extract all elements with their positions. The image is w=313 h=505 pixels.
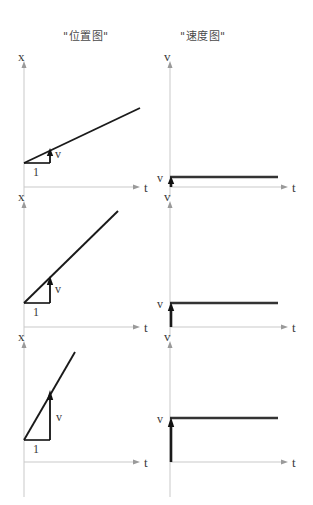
position-graph-row2: x t 1 v xyxy=(0,192,160,337)
velocity-level-label: v xyxy=(157,297,163,311)
x-axis-arrowhead xyxy=(133,325,140,330)
x-axis-label: t xyxy=(292,455,296,470)
rise-label: v xyxy=(56,410,62,424)
column-title-velocity: "速度图" xyxy=(180,27,226,43)
x-axis-arrowhead xyxy=(133,460,140,465)
velocity-graph-row2: v t v xyxy=(156,192,313,337)
y-axis-label: v xyxy=(164,52,171,64)
velocity-graph-row3: v t v xyxy=(156,332,313,497)
y-axis-label: x xyxy=(18,332,25,344)
run-label: 1 xyxy=(33,165,39,179)
position-data-line xyxy=(24,108,140,163)
x-axis-arrowhead xyxy=(133,185,140,190)
velocity-level-label: v xyxy=(157,412,163,426)
position-graph-row1: x t 1 v xyxy=(0,52,160,197)
x-axis-arrowhead xyxy=(281,185,288,190)
position-graph-row3: x t 1 v xyxy=(0,332,160,497)
x-axis-label: t xyxy=(144,455,148,470)
y-axis-label: x xyxy=(18,192,25,204)
y-axis-label: v xyxy=(164,332,171,344)
x-axis-arrowhead xyxy=(281,460,288,465)
position-data-line xyxy=(24,211,118,303)
run-label: 1 xyxy=(33,305,39,319)
run-label: 1 xyxy=(33,442,39,456)
rise-label: v xyxy=(55,147,61,161)
column-title-position: "位置图" xyxy=(63,27,109,43)
rise-label: v xyxy=(55,282,61,296)
velocity-graph-row1: v t v xyxy=(156,52,313,197)
y-axis-label: x xyxy=(18,52,25,64)
y-axis-label: v xyxy=(164,192,171,204)
x-axis-arrowhead xyxy=(281,325,288,330)
velocity-level-label: v xyxy=(157,171,163,185)
figure-canvas: "位置图" "速度图" x t 1 v v t v x t xyxy=(0,0,313,505)
